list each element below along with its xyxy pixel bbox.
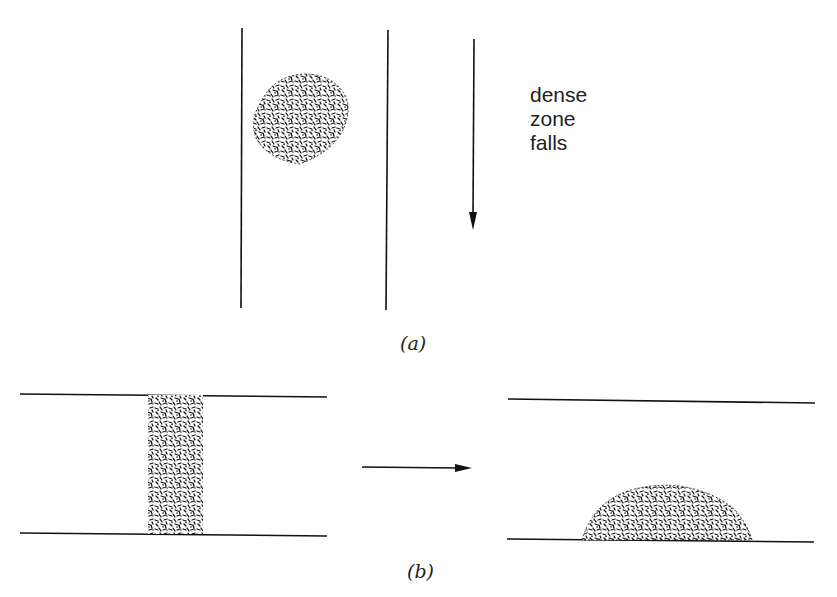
right-arrow-icon: [455, 464, 472, 472]
dense-zone-falls-label: dense zone falls: [530, 83, 587, 155]
tube-right-wall: [386, 30, 388, 310]
diagram-canvas: [0, 0, 837, 597]
caption-a: (a): [400, 332, 426, 354]
after-top-line: [508, 399, 815, 403]
panel-a: [241, 28, 477, 310]
settled-heap: [582, 485, 752, 540]
panel-b: [20, 394, 815, 542]
transition-arrow-shaft: [362, 467, 458, 468]
dense-zone-band: [148, 395, 203, 534]
falling-arrow-shaft: [473, 39, 474, 218]
down-arrow-icon: [469, 212, 477, 230]
label-line-3: falls: [530, 131, 587, 155]
tube-left-wall: [241, 28, 242, 308]
caption-b: (b): [407, 560, 434, 582]
label-line-2: zone: [530, 107, 587, 131]
label-line-1: dense: [530, 83, 587, 107]
dense-zone-blob: [253, 74, 348, 164]
